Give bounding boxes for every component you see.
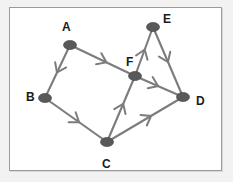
node-label-F: F — [126, 56, 133, 68]
edge-line-F-E — [135, 27, 153, 76]
edge-line-B-C — [45, 98, 107, 142]
edge-C-F — [107, 76, 135, 142]
node-F[interactable] — [129, 71, 142, 80]
node-label-B: B — [26, 91, 35, 103]
node-label-E: E — [163, 13, 171, 25]
edge-B-C — [45, 98, 107, 142]
node-A[interactable] — [64, 40, 77, 49]
edge-line-C-D — [107, 97, 183, 142]
diagram-canvas: ABCDEF — [0, 0, 233, 182]
node-label-A: A — [62, 21, 71, 33]
node-E[interactable] — [147, 22, 160, 31]
edge-A-B — [45, 45, 70, 98]
node-C[interactable] — [101, 137, 114, 146]
node-D[interactable] — [177, 92, 190, 101]
node-label-C: C — [102, 158, 111, 170]
edge-line-C-F — [107, 76, 135, 142]
edge-C-D — [107, 97, 183, 142]
node-label-D: D — [196, 95, 205, 107]
node-B[interactable] — [39, 93, 52, 102]
edge-F-E — [135, 27, 153, 76]
